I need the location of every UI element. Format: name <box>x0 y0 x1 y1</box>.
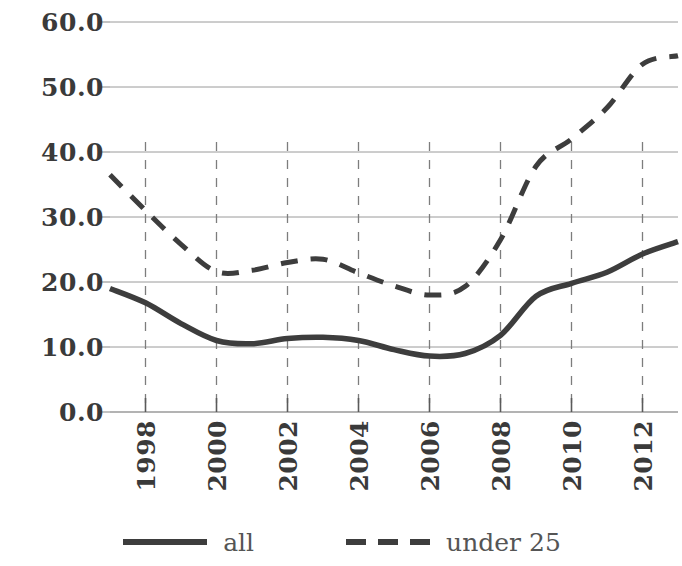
legend-label-under-25: under 25 <box>446 528 561 557</box>
x-axis-tick-labels: 19982000200220042006200820102012 <box>0 0 682 566</box>
chart-legend: all under 25 <box>0 518 682 566</box>
x-axis-label: 2006 <box>415 420 444 492</box>
chart-container: 60.050.040.030.020.010.00.0 199820002002… <box>0 0 682 566</box>
legend-swatch-dashed-icon <box>344 537 432 547</box>
legend-swatch-solid-icon <box>121 537 209 547</box>
x-axis-label: 2012 <box>628 420 657 492</box>
x-axis-label: 2010 <box>557 420 586 492</box>
legend-label-all: all <box>223 528 254 557</box>
x-axis-label: 1998 <box>131 420 160 492</box>
legend-item-all: all <box>121 528 254 557</box>
legend-item-under-25: under 25 <box>344 528 561 557</box>
x-axis-label: 2008 <box>486 420 515 492</box>
x-axis-label: 2004 <box>344 420 373 492</box>
x-axis-label: 2002 <box>273 420 302 492</box>
x-axis-label: 2000 <box>202 420 231 492</box>
